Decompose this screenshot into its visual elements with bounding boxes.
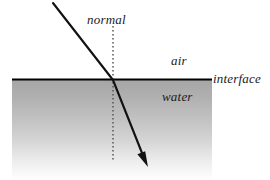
refraction-diagram: normal air interface water (0, 0, 270, 180)
label-air: air (171, 54, 187, 67)
label-water: water (162, 90, 193, 103)
diagram-canvas (0, 0, 270, 180)
label-interface: interface (213, 72, 261, 85)
label-normal: normal (87, 13, 126, 26)
